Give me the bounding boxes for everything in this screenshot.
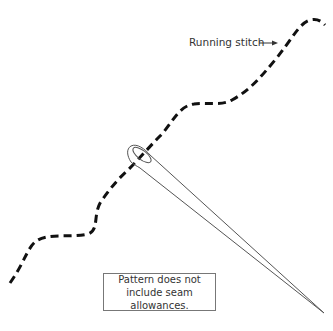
note-line-2: include seam allowances. (104, 286, 215, 312)
running-stitch-label: Running stitch (189, 36, 264, 48)
note-line-1: Pattern does not (118, 273, 201, 286)
running-stitch-line (10, 19, 325, 283)
arrowhead-icon (272, 41, 278, 46)
seam-allowance-note: Pattern does not include seam allowances… (103, 273, 216, 311)
